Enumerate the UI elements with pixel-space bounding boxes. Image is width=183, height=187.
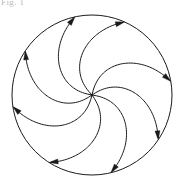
- figure-root: Fig. 1 Spiral vector field in a disk: [0, 0, 183, 187]
- spiral-arm-7: [51, 95, 101, 162]
- spiral-field-diagram: Spiral vector field in a disk: [0, 0, 183, 187]
- spiral-arm-3: [80, 22, 123, 95]
- spiral-arms-group: [14, 18, 169, 171]
- figure-caption: Fig. 1: [1, 0, 24, 7]
- spiral-arm-1: [92, 87, 158, 138]
- spiral-arm-4: [58, 18, 92, 95]
- arrow-head-arm-upper-right: [115, 22, 124, 27]
- spiral-arm-2: [92, 63, 170, 95]
